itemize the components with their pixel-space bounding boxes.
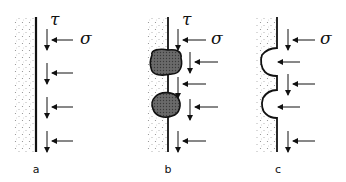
soil-stipple: [146, 17, 168, 152]
shear-arrows: [178, 29, 190, 152]
deposit-blob: [152, 93, 180, 118]
soil-stipple: [256, 17, 277, 152]
panel-label-c: c: [275, 163, 281, 176]
tau-symbol-a: τ: [50, 11, 59, 28]
sigma-symbol-c: σ: [320, 30, 332, 47]
soil-stipple: [14, 17, 36, 152]
panel-a: [14, 17, 73, 152]
panel-b: [146, 17, 218, 152]
normal-arrows: [278, 40, 315, 141]
normal-arrows: [52, 40, 73, 141]
panel-label-a: a: [33, 163, 40, 176]
panel-label-b: b: [165, 163, 172, 176]
deposit-blob: [150, 49, 181, 75]
tau-symbol-b: τ: [182, 11, 191, 28]
sigma-symbol-a: σ: [80, 30, 92, 47]
sigma-symbol-b: σ: [211, 30, 223, 47]
normal-arrows: [183, 40, 218, 141]
panel-c: [256, 17, 315, 152]
